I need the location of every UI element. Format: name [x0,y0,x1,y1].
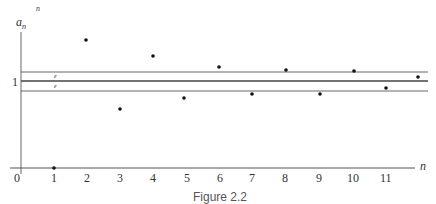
svg-text:3: 3 [117,171,123,185]
point-n1 [52,166,56,170]
point-n6 [217,65,221,69]
svg-text:7: 7 [249,171,255,185]
point-n7 [250,92,254,96]
point-n9 [318,92,322,96]
point-n10 [352,69,356,73]
svg-text:9: 9 [316,171,322,185]
point-n5 [182,96,186,100]
data-points [52,38,420,170]
top-fragment-text: n [36,4,40,13]
epsilon-lower-label: ε [54,82,57,90]
svg-text:10: 10 [347,171,359,185]
svg-text:6: 6 [217,171,223,185]
figure-caption: Figure 2.2 [193,190,247,204]
point-n11 [384,86,388,90]
y-tick-1: 1 [12,75,18,89]
svg-text:0: 0 [14,171,20,185]
svg-text:8: 8 [282,171,288,185]
point-n2 [84,38,88,42]
sequence-convergence-chart: n an n 1 ε ε 0 1 2 3 4 5 6 7 8 9 10 11 [0,0,436,204]
svg-text:1: 1 [51,171,57,185]
y-axis-label: an [16,15,26,31]
svg-text:5: 5 [184,171,190,185]
svg-text:4: 4 [150,171,156,185]
point-n4 [151,54,155,58]
point-n8 [284,68,288,72]
point-n12 [416,75,420,79]
epsilon-upper-label: ε [54,72,57,80]
svg-text:11: 11 [380,171,392,185]
point-n3 [118,107,122,111]
svg-text:2: 2 [84,171,90,185]
x-tick-labels: 0 1 2 3 4 5 6 7 8 9 10 11 [14,171,392,185]
x-axis-label: n [420,159,426,173]
